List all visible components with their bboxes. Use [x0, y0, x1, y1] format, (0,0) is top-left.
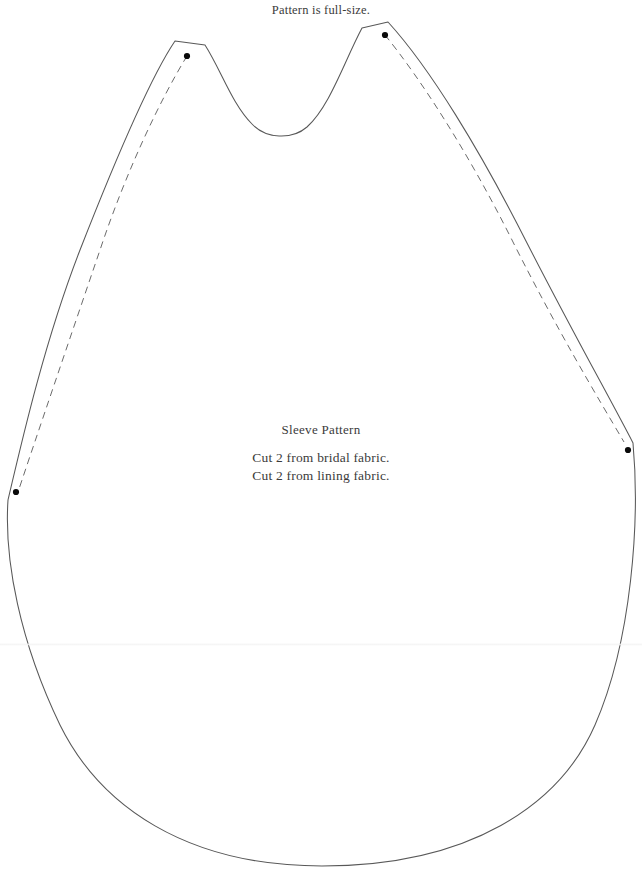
pattern-sheet: Pattern is full-size. Sleeve Pattern Cut… [0, 0, 642, 869]
full-size-note: Pattern is full-size. [0, 3, 642, 18]
left-hem-dot-marker [13, 489, 19, 495]
cut-instruction-lining: Cut 2 from lining fabric. [0, 467, 642, 485]
right-shoulder-dot-marker [382, 32, 388, 38]
left-shoulder-dot-marker [184, 53, 190, 59]
pattern-heading: Sleeve Pattern [0, 421, 642, 438]
seam-line-right [385, 35, 624, 442]
cut-instruction-bridal: Cut 2 from bridal fabric. [0, 449, 642, 467]
cut-instruction-list: Cut 2 from bridal fabric. Cut 2 from lin… [0, 449, 642, 485]
pattern-label-block: Sleeve Pattern Cut 2 from bridal fabric.… [0, 421, 642, 485]
